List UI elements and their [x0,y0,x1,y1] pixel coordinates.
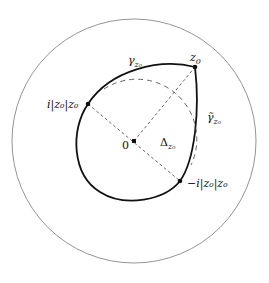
label-z0: z0 [190,52,201,66]
label-neg-i-point: −i|z₀|z₀ [187,178,228,189]
diagram-canvas [0,0,269,283]
label-gamma-tilde: γ̃z₀ [207,112,221,126]
i-point [86,102,91,107]
dashed-semicircle-arc [104,79,197,165]
label-delta: Δz₀ [160,137,175,151]
label-i-point: i|z₀|z₀ [47,99,78,110]
origin-point [132,139,136,143]
label-origin: 0 [122,140,129,151]
label-gamma: γz₀ [128,55,142,69]
neg-i-point [178,179,183,184]
